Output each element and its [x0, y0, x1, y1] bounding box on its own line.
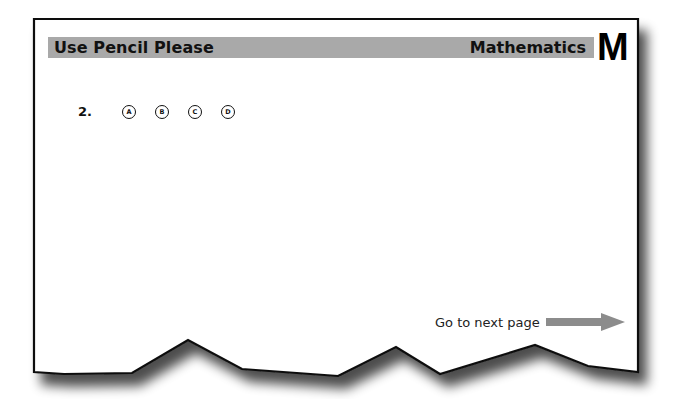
subject-letter: M [597, 27, 629, 67]
answer-bubble-c[interactable]: C [188, 105, 202, 119]
right-arrow-icon [546, 313, 626, 331]
go-to-next-page: Go to next page [435, 313, 626, 331]
torn-page-sheet [0, 0, 675, 399]
question-row: 2. A B C D [78, 104, 254, 119]
header-bar: Use Pencil Please Mathematics [48, 37, 594, 58]
question-number: 2. [78, 104, 122, 119]
answer-bubble-a[interactable]: A [122, 105, 136, 119]
next-page-label: Go to next page [435, 315, 540, 330]
answer-bubble-d[interactable]: D [221, 105, 235, 119]
subject-title: Mathematics [470, 37, 586, 58]
answer-bubble-b[interactable]: B [155, 105, 169, 119]
use-pencil-title: Use Pencil Please [54, 37, 214, 58]
